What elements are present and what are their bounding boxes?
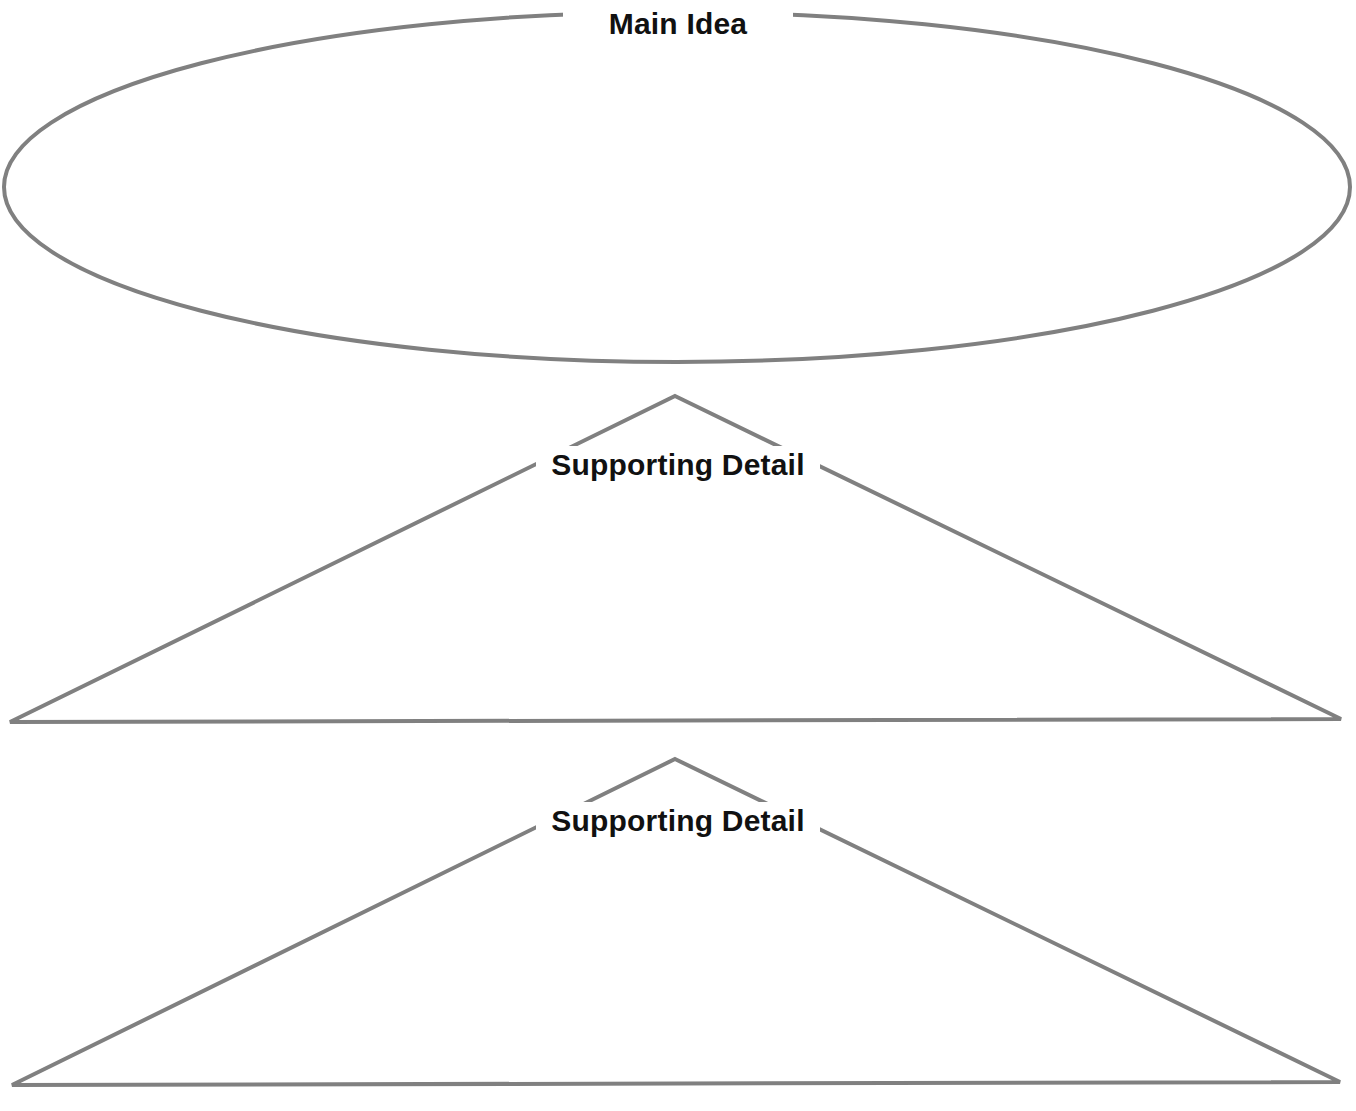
main-idea-ellipse <box>4 12 1350 362</box>
supporting-detail-label-1[interactable]: Supporting Detail <box>536 446 820 486</box>
supporting-detail-triangle-1 <box>10 396 1341 722</box>
supporting-detail-label-2[interactable]: Supporting Detail <box>536 802 820 842</box>
organizer-shapes <box>0 0 1356 1111</box>
graphic-organizer: Main Idea Supporting Detail Supporting D… <box>0 0 1356 1111</box>
main-idea-label[interactable]: Main Idea <box>563 6 793 44</box>
